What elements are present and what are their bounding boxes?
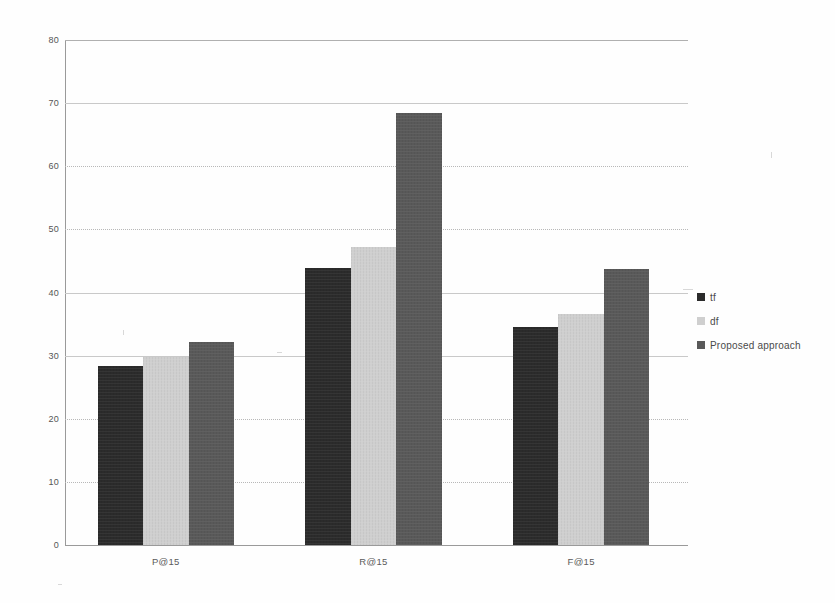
- bar-group-f-15: [513, 40, 650, 545]
- y-axis-tick-labels: 80706050403020100: [6, 40, 59, 545]
- legend-item-proposed-approach[interactable]: Proposed approach: [697, 333, 832, 357]
- legend-swatch-icon: [697, 317, 705, 325]
- bar-group-r-15: [305, 40, 442, 545]
- x-tick-label: F@15: [568, 556, 595, 567]
- scan-speck: [58, 584, 62, 585]
- bar[interactable]: [396, 113, 442, 545]
- x-tick-label: R@15: [359, 556, 387, 567]
- bar[interactable]: [558, 314, 604, 545]
- legend-swatch-icon: [697, 341, 705, 349]
- bar[interactable]: [305, 268, 351, 545]
- y-tick-label: 80: [13, 36, 59, 45]
- bar-group-p-15: [98, 40, 235, 545]
- y-tick-label: 10: [13, 477, 59, 486]
- bar[interactable]: [351, 247, 397, 545]
- chart-legend: tfdfProposed approach: [697, 285, 832, 357]
- y-tick-label: 20: [13, 414, 59, 423]
- legend-item-df[interactable]: df: [697, 309, 832, 333]
- plot-area: [65, 40, 688, 545]
- bar[interactable]: [143, 357, 189, 545]
- scan-speck: [771, 152, 772, 158]
- y-tick-label: 30: [13, 351, 59, 360]
- y-tick-label: 70: [13, 99, 59, 108]
- y-tick-label: 60: [13, 162, 59, 171]
- bar[interactable]: [98, 366, 144, 545]
- y-tick-label: 50: [13, 225, 59, 234]
- legend-item-tf[interactable]: tf: [697, 285, 832, 309]
- bar[interactable]: [189, 342, 235, 545]
- y-tick-label: 0: [13, 541, 59, 550]
- bar[interactable]: [604, 269, 650, 545]
- x-tick-label: P@15: [152, 556, 180, 567]
- legend-label: df: [710, 316, 719, 327]
- legend-label: tf: [710, 292, 716, 303]
- y-tick-label: 40: [13, 288, 59, 297]
- x-axis-tick-labels: P@15R@15F@15: [65, 556, 688, 576]
- legend-swatch-icon: [697, 293, 705, 301]
- x-axis-line: [65, 545, 688, 546]
- bar-chart: 80706050403020100 P@15R@15F@15 tfdfPropo…: [0, 0, 835, 603]
- bar[interactable]: [513, 327, 559, 545]
- legend-label: Proposed approach: [710, 340, 801, 351]
